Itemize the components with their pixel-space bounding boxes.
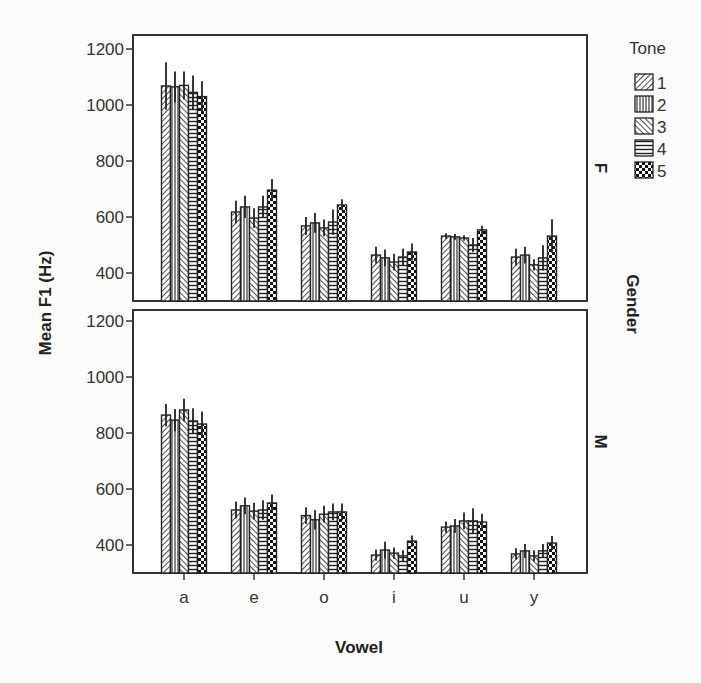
- y-tick-label: 800: [96, 424, 124, 443]
- y-tick-label: 1000: [86, 368, 124, 387]
- bar-a-tone-5: [198, 424, 207, 573]
- bar-a-tone-5: [198, 97, 207, 301]
- bar-e-tone-3: [250, 511, 259, 573]
- legend-swatch-diagonal-up-icon: [635, 118, 653, 134]
- bar-u-tone-5: [478, 230, 487, 301]
- bar-o-tone-3: [320, 514, 329, 573]
- facet-title: Gender: [623, 274, 642, 334]
- x-axis-title: Vowel: [335, 638, 383, 657]
- faceted-bar-chart: 40060080010001200F40060080010001200aeoiu…: [0, 0, 701, 683]
- bar-o-tone-1: [302, 226, 311, 301]
- x-tick-label: u: [459, 588, 468, 607]
- bar-a-tone-4: [189, 92, 198, 301]
- legend-swatch-checker-icon: [635, 162, 653, 178]
- bar-e-tone-4: [259, 207, 268, 301]
- panel-label: M: [591, 434, 610, 448]
- bar-e-tone-1: [232, 212, 241, 301]
- bar-a-tone-3: [180, 85, 189, 301]
- bar-a-tone-1: [162, 415, 171, 573]
- bar-e-tone-5: [268, 190, 277, 301]
- panel-label: F: [591, 163, 610, 173]
- y-tick-label: 600: [96, 208, 124, 227]
- bar-o-tone-2: [311, 223, 320, 301]
- x-tick-label: a: [179, 588, 189, 607]
- legend-swatch-vertical-icon: [635, 96, 653, 112]
- bar-u-tone-2: [451, 237, 460, 301]
- x-tick-label: i: [392, 588, 396, 607]
- bar-e-tone-3: [250, 218, 259, 301]
- bar-a-tone-1: [162, 86, 171, 301]
- bar-a-tone-4: [189, 421, 198, 573]
- x-tick-label: o: [319, 588, 328, 607]
- legend-label: 3: [657, 118, 666, 137]
- bar-u-tone-3: [460, 238, 469, 301]
- bar-o-tone-4: [329, 512, 338, 573]
- bar-o-tone-5: [338, 205, 347, 301]
- x-tick-label: e: [249, 588, 258, 607]
- y-tick-label: 1200: [86, 40, 124, 59]
- y-tick-label: 400: [96, 264, 124, 283]
- legend-label: 1: [657, 74, 666, 93]
- bar-o-tone-1: [302, 516, 311, 573]
- legend-swatch-horizontal-icon: [635, 140, 653, 156]
- y-tick-label: 600: [96, 480, 124, 499]
- y-axis-title: Mean F1 (Hz): [36, 251, 55, 356]
- y-tick-label: 800: [96, 152, 124, 171]
- legend: Tone12345: [629, 39, 666, 181]
- panel-F: 40060080010001200F: [86, 35, 610, 301]
- legend-label: 5: [657, 162, 666, 181]
- y-tick-label: 1200: [86, 312, 124, 331]
- legend-label: 4: [657, 140, 666, 159]
- y-tick-label: 1000: [86, 96, 124, 115]
- bar-o-tone-5: [338, 512, 347, 573]
- bar-a-tone-2: [171, 420, 180, 573]
- bar-u-tone-4: [469, 245, 478, 301]
- bar-e-tone-2: [241, 207, 250, 301]
- x-tick-label: y: [530, 588, 539, 607]
- bar-e-tone-5: [268, 503, 277, 573]
- legend-swatch-diagonal-down-icon: [635, 74, 653, 90]
- legend-label: 2: [657, 96, 666, 115]
- legend-title: Tone: [629, 39, 666, 58]
- y-tick-label: 400: [96, 536, 124, 555]
- bar-u-tone-2: [451, 526, 460, 573]
- bar-e-tone-2: [241, 506, 250, 573]
- bar-a-tone-2: [171, 87, 180, 301]
- bar-a-tone-3: [180, 410, 189, 573]
- bar-u-tone-1: [442, 236, 451, 301]
- bar-e-tone-1: [232, 510, 241, 573]
- bar-o-tone-3: [320, 228, 329, 301]
- bar-u-tone-1: [442, 527, 451, 573]
- panel-M: 40060080010001200aeoiuyM: [86, 310, 610, 607]
